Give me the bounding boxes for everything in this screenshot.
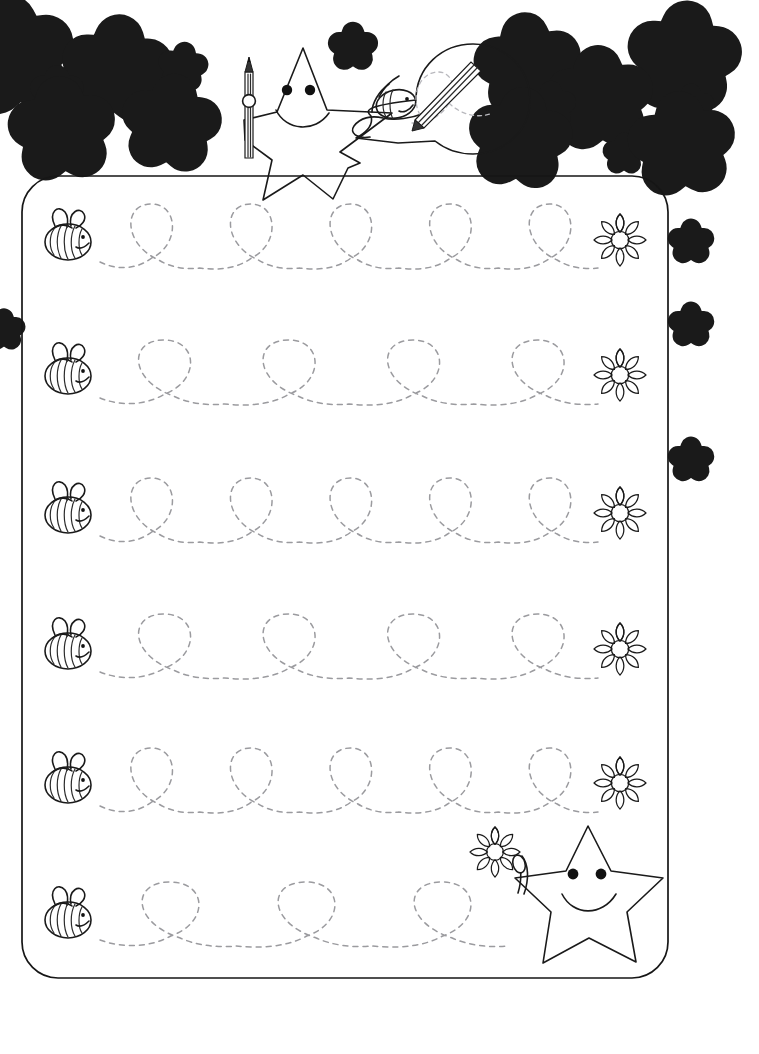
star-icon — [141, 93, 202, 151]
star-icon — [339, 33, 367, 59]
star-mascot-with-pencil — [243, 48, 392, 200]
loop-trace-path[interactable] — [100, 340, 598, 405]
star-icon — [678, 312, 704, 336]
star-icon — [30, 98, 94, 158]
star-icon — [678, 447, 704, 471]
star-icon — [489, 107, 552, 166]
flower-icon — [594, 623, 646, 675]
bee-icon — [45, 752, 91, 803]
tracing-rows — [45, 204, 646, 947]
star-icon — [0, 318, 16, 340]
header-star-field — [0, 18, 718, 173]
tracing-row — [45, 614, 646, 679]
loop-trace-path[interactable] — [100, 748, 598, 813]
loop-trace-path[interactable] — [100, 478, 598, 543]
flower-icon — [594, 214, 646, 266]
loop-trace-path[interactable] — [100, 204, 598, 269]
flower-icon — [470, 827, 520, 877]
tracing-row — [45, 827, 520, 947]
worksheet-canvas — [0, 0, 759, 1054]
worksheet-page — [0, 0, 759, 1054]
loop-trace-path[interactable] — [100, 882, 508, 947]
flower-icon — [594, 349, 646, 401]
tracing-panel-frame — [22, 176, 668, 978]
star-icon — [650, 23, 718, 87]
bee-icon — [45, 209, 91, 260]
pencil-icon — [243, 57, 256, 158]
tracing-row — [45, 204, 646, 269]
tracing-row — [45, 478, 646, 543]
tracing-row — [45, 748, 646, 813]
side-star-field — [0, 229, 704, 471]
loop-trace-path[interactable] — [100, 614, 598, 679]
tracing-row — [45, 340, 646, 405]
bee-icon — [45, 887, 91, 938]
star-icon — [650, 113, 714, 173]
star-mascot-end — [511, 826, 663, 963]
flower-icon — [594, 757, 646, 809]
bee-icon — [45, 482, 91, 533]
star-icon — [85, 37, 150, 98]
bee-icon — [45, 343, 91, 394]
star-icon — [568, 67, 631, 126]
star-icon — [678, 229, 704, 253]
flower-icon — [594, 487, 646, 539]
bee-icon — [45, 618, 91, 669]
